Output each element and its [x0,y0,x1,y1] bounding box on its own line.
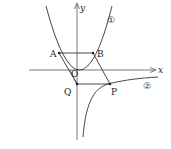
x-axis [29,68,156,73]
point-p [109,83,112,86]
point-q-label: Q [64,87,71,97]
point-p-label: P [111,87,117,97]
y-axis-label: y [79,3,86,13]
point-b-label: B [97,49,104,59]
parabola-curve-1 [46,6,112,70]
point-a-label: A [49,49,57,59]
diagram-canvas: y x O A B Q P ① ② [0,0,171,149]
point-b [92,52,95,55]
point-q [76,83,79,86]
curve-2-label: ② [143,81,151,91]
curve-1-label: ① [107,15,115,25]
point-a [58,52,61,55]
x-axis-label: x [158,65,163,75]
origin-label: O [71,69,78,79]
